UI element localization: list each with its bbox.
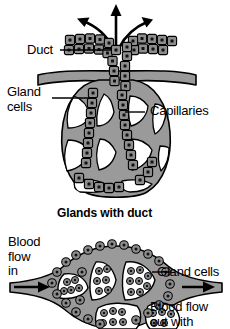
label-gland-cells: Glandcells bbox=[7, 85, 41, 114]
label-blood-flow-in-line3: in bbox=[8, 263, 18, 278]
gland-body bbox=[38, 71, 196, 198]
label-gland-cells-line2: cells bbox=[7, 99, 32, 114]
caption-glands-with-duct: Glands with duct bbox=[57, 206, 152, 220]
label-gland-cells-line1: Gland bbox=[7, 84, 41, 99]
label-capillaries: Capillaries bbox=[150, 104, 209, 119]
label-gland-cells-bottom: Gland cells bbox=[157, 265, 219, 280]
label-blood-flow-out-line2: out with bbox=[150, 314, 193, 329]
label-duct: Duct bbox=[27, 43, 53, 58]
label-blood-flow-in-line2: flow bbox=[8, 249, 30, 264]
label-blood-flow-in-line1: Blood bbox=[8, 234, 40, 249]
label-blood-flow-out: Blood flowout with bbox=[150, 300, 208, 329]
label-blood-flow-in: Bloodflowin bbox=[8, 235, 40, 279]
glands-figure: Duct Glandcells Capillaries Glands with … bbox=[0, 0, 230, 329]
label-blood-flow-out-line1: Blood flow bbox=[150, 299, 208, 314]
